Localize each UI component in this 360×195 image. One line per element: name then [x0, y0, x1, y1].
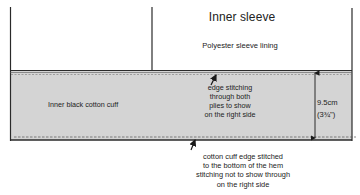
- annotation-line: stitching not to show through: [196, 170, 290, 179]
- bottom-stitching-annotation: cotton cuff edge stitched to the bottom …: [196, 152, 290, 189]
- annotation-line: through both: [204, 92, 255, 101]
- diagram-drawing: [0, 0, 360, 195]
- cuff-construction-diagram: Inner sleeve Polyester sleeve lining Inn…: [0, 0, 360, 195]
- top-stitching-annotation: edge stitching through both plies to sho…: [204, 83, 255, 119]
- annotation-line: edge stitching: [204, 83, 255, 92]
- inner-sleeve-title: Inner sleeve: [209, 11, 276, 23]
- annotation-line: to the bottom of the hem: [196, 161, 290, 170]
- bottom-stitching-pointer: [191, 140, 195, 150]
- annotation-line: on the right side: [196, 180, 290, 189]
- measurement-metric: 9.5cm: [317, 97, 338, 109]
- measurement-imperial: (3¾"): [317, 109, 338, 121]
- annotation-line: cotton cuff edge stitched: [196, 152, 290, 161]
- cuff-height-measurement: 9.5cm (3¾"): [317, 97, 338, 121]
- sleeve-material-label: Polyester sleeve lining: [202, 42, 278, 50]
- cuff-label: Inner black cotton cuff: [48, 101, 118, 108]
- annotation-line: plies to show: [204, 101, 255, 110]
- annotation-line: on the right side: [204, 110, 255, 119]
